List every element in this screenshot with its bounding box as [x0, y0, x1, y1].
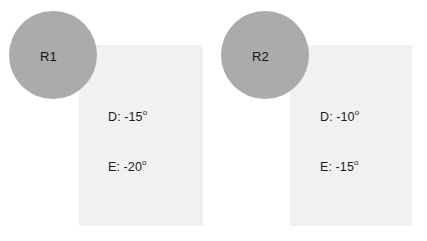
region-2-measurement-d-value: -10	[336, 110, 354, 124]
region-1-circle-label: R1	[40, 50, 57, 63]
region-2-measurement-e-value: -15	[336, 160, 354, 174]
degree-icon: o	[354, 158, 359, 167]
region-2-circle-label: R2	[252, 50, 269, 63]
region-2-measurement-d: D: -10o	[320, 111, 359, 124]
degree-icon: o	[142, 158, 147, 167]
region-2-circle: R2	[221, 11, 309, 99]
region-1-measurement-e-text: E:	[108, 160, 120, 174]
region-2-measurement-e-text: E:	[320, 160, 332, 174]
region-1-measurement-e: E: -20o	[108, 161, 147, 174]
region-1-measurement-d: D: -15o	[108, 111, 147, 124]
figure-canvas: D: -15o E: -20o R1 D: -10o E: -15o R2	[0, 0, 427, 241]
region-1-panel: D: -15o E: -20o	[79, 45, 203, 226]
region-1-circle: R1	[9, 11, 97, 99]
region-1-measurement-e-value: -20	[124, 160, 142, 174]
region-1-measurement-d-text: D:	[108, 110, 121, 124]
degree-icon: o	[355, 108, 360, 117]
region-2-panel: D: -10o E: -15o	[290, 45, 412, 226]
region-2-measurement-e: E: -15o	[320, 161, 359, 174]
region-1-measurement-d-value: -15	[124, 110, 142, 124]
degree-icon: o	[143, 108, 148, 117]
region-2-measurement-d-text: D:	[320, 110, 333, 124]
